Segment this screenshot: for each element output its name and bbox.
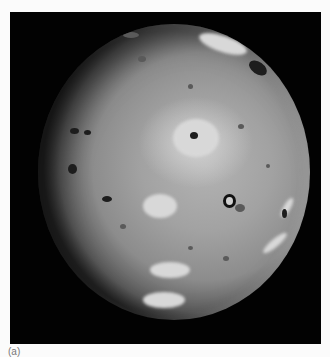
bright-streak-right [261, 230, 289, 255]
photo-frame [10, 12, 321, 344]
dark-spot-left-2 [84, 130, 91, 135]
dark-spot-mid-5 [223, 256, 229, 261]
moon-io-image [38, 24, 310, 320]
bright-streak-right-2 [278, 196, 295, 219]
bright-patch-lower-center [143, 194, 177, 218]
dark-spot-left-3 [68, 164, 77, 174]
dark-spot-mid-1 [188, 84, 193, 89]
dark-spot-center [190, 132, 198, 139]
dark-spot-left-1 [70, 128, 79, 134]
volcano-ring-feature [223, 194, 236, 208]
dark-spot-mid-3 [120, 224, 126, 229]
dark-spot-top-1 [123, 32, 139, 38]
figure-caption-label: (a) [8, 346, 20, 357]
dark-spot-top-2 [138, 56, 146, 62]
bright-patch-bottom-2 [143, 292, 185, 308]
dark-spot-right [282, 209, 287, 218]
dark-spot-top-right [246, 57, 269, 78]
volcano-ring-shadow [235, 204, 245, 212]
dark-spot-right-2 [266, 164, 270, 168]
bright-patch-top-right [197, 29, 249, 60]
dark-spot-left-4 [102, 196, 112, 202]
bright-patch-bottom-1 [150, 262, 190, 278]
dark-spot-mid-4 [188, 246, 193, 250]
dark-spot-mid-2 [238, 124, 244, 129]
